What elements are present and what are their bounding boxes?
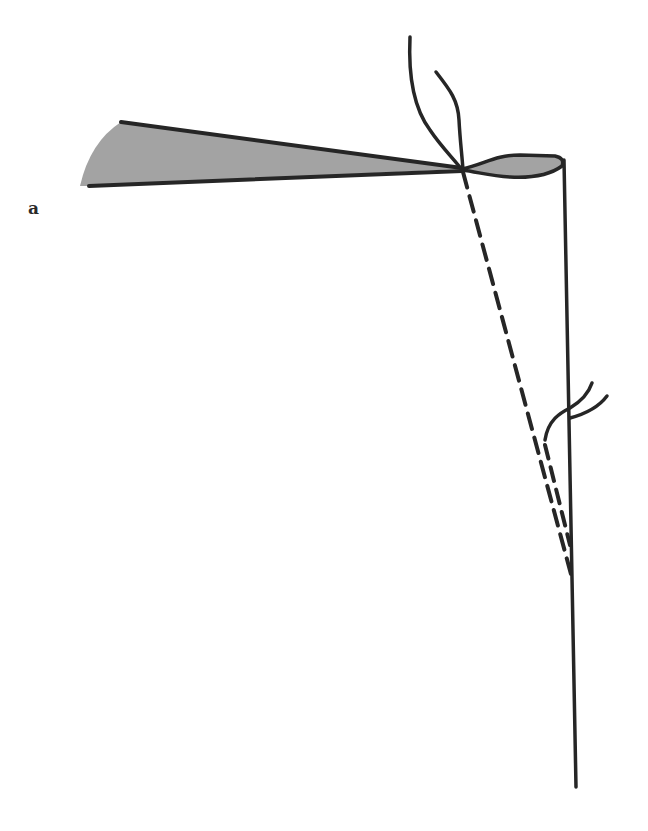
- figure-canvas: a: [0, 0, 648, 831]
- lower-thread-2: [570, 396, 607, 418]
- knot-loop: [462, 155, 563, 177]
- dashed-line-1: [463, 172, 572, 578]
- vertical-line: [564, 160, 576, 787]
- shaded-wedge: [80, 122, 462, 186]
- knot-diagram: [0, 0, 648, 831]
